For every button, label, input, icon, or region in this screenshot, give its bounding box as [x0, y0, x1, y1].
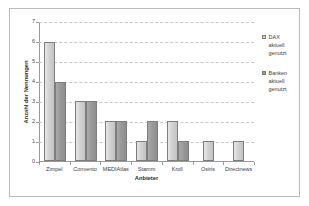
bar-groups: [40, 22, 254, 161]
y-tick-mark: [36, 122, 39, 123]
y-tick-mark: [36, 22, 39, 23]
x-tick-mark: [162, 162, 163, 165]
bar-group: [193, 22, 224, 161]
bar-group: [40, 22, 71, 161]
chart-figure: Anzahl der Nennungen 01234567 ZimpelConv…: [0, 0, 309, 206]
legend-label: DAX aktuell genutzt: [269, 34, 287, 58]
bar: [233, 141, 244, 161]
y-tick-mark: [36, 102, 39, 103]
bar-group: [71, 22, 102, 161]
bar: [203, 141, 214, 161]
bar: [105, 121, 116, 161]
y-tick-label: 3: [32, 99, 35, 105]
legend-swatch-icon: [262, 71, 266, 75]
x-axis-title: Anbieter: [39, 176, 254, 182]
y-tick-label: 2: [32, 119, 35, 125]
x-axis-label: Osiris: [193, 166, 224, 172]
legend-entry: DAX aktuell genutzt: [262, 34, 306, 58]
legend-entry: Banken aktuell genutzt: [262, 70, 306, 94]
y-tick-mark: [36, 62, 39, 63]
plot-inner: 01234567: [39, 22, 254, 162]
x-tick-mark: [100, 162, 101, 165]
x-tick-mark: [254, 162, 255, 165]
y-tick-label: 4: [32, 79, 35, 85]
bar: [55, 82, 66, 161]
bar: [44, 42, 55, 161]
bar: [136, 141, 147, 161]
bar: [147, 121, 158, 161]
bar-group: [101, 22, 132, 161]
y-tick-label: 1: [32, 139, 35, 145]
x-tick-mark: [131, 162, 132, 165]
plot-area: 01234567: [39, 22, 254, 162]
y-tick-mark: [36, 142, 39, 143]
bar-group: [223, 22, 254, 161]
bar: [167, 121, 178, 161]
x-tick-mark: [70, 162, 71, 165]
x-tick-mark: [193, 162, 194, 165]
legend-swatch-icon: [262, 35, 266, 39]
chart-legend: DAX aktuell genutztBanken aktuell genutz…: [262, 34, 306, 106]
x-axis-label: Convento: [70, 166, 101, 172]
x-tick-mark: [39, 162, 40, 165]
y-axis-title-label: Anzahl der Nennungen: [24, 60, 30, 123]
x-axis-label: Zimpel: [39, 166, 70, 172]
y-tick-label: 6: [32, 39, 35, 45]
y-tick-label: 0: [32, 159, 35, 165]
y-tick-label: 5: [32, 59, 35, 65]
x-axis-label: Directnews: [223, 166, 254, 172]
x-axis-label: Stamm: [131, 166, 162, 172]
bar: [86, 101, 97, 161]
y-tick-label: 7: [32, 19, 35, 25]
bar-group: [162, 22, 193, 161]
bar-group: [132, 22, 163, 161]
bar: [178, 141, 189, 161]
legend-label: Banken aktuell genutzt: [269, 70, 288, 94]
y-tick-mark: [36, 82, 39, 83]
x-axis-labels: ZimpelConventoMEDIAtlasStammKrollOsirisD…: [39, 166, 254, 172]
bar: [116, 121, 127, 161]
x-tick-mark: [223, 162, 224, 165]
bar: [75, 101, 86, 161]
y-tick-mark: [36, 42, 39, 43]
x-axis-label: Kroll: [162, 166, 193, 172]
y-axis-title: Anzahl der Nennungen: [22, 22, 32, 162]
x-axis-label: MEDIAtlas: [100, 166, 131, 172]
